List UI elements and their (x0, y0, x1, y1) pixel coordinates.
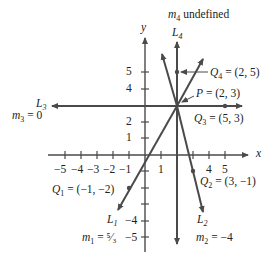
m1-label: m1 = ⁵⁄₃ (82, 232, 117, 246)
y-tick-label-2: 2 (126, 116, 132, 128)
P-label: P = (2, 3) (196, 88, 240, 100)
y-axis-label: y (141, 22, 146, 34)
p-pointer-arrow (182, 96, 194, 102)
m4-label: m4 undefined (168, 9, 229, 23)
L2-label: L2 (197, 214, 207, 228)
x-axis-label: x (256, 148, 261, 160)
Q1-label: Q1 = (−1, −2) (52, 184, 114, 198)
y-tick-label-1: 1 (126, 132, 132, 144)
x-tick-label-neg5: −5 (54, 164, 66, 176)
line-L2-up (162, 54, 177, 106)
x-tick-label-neg2: −2 (103, 164, 115, 176)
m3-label: m3 = 0 (12, 110, 42, 124)
point-Q2 (191, 169, 195, 173)
x-tick-label-1: 1 (158, 164, 164, 176)
y-tick-label-neg5: −5 (125, 232, 137, 244)
x-tick-label-neg1: −1 (119, 164, 131, 176)
point-Q3 (223, 104, 227, 108)
L4-label: L4 (172, 27, 182, 41)
y-tick-label-4: 4 (126, 83, 132, 95)
y-tick-label-5: 5 (126, 66, 132, 78)
Q2-label: Q2 = (3, −1) (200, 176, 256, 190)
point-Q1 (127, 186, 131, 190)
Q3-label: Q3 = (5, 3) (194, 113, 243, 127)
L1-label: L1 (107, 214, 117, 228)
x-tick-label-5: 5 (222, 164, 228, 176)
x-tick-label-4: 4 (206, 164, 212, 176)
slope-diagram: y x m4 undefined L4 Q4 = (2, 5) P = (2, … (0, 0, 272, 259)
point-Q4 (175, 70, 179, 74)
y-tick-label-neg4: −4 (125, 215, 137, 227)
Q4-label: Q4 = (2, 5) (210, 67, 259, 81)
x-tick-label-neg3: −3 (87, 164, 99, 176)
m2-label: m2 = −4 (196, 232, 233, 246)
x-tick-label-neg4: −4 (71, 164, 83, 176)
